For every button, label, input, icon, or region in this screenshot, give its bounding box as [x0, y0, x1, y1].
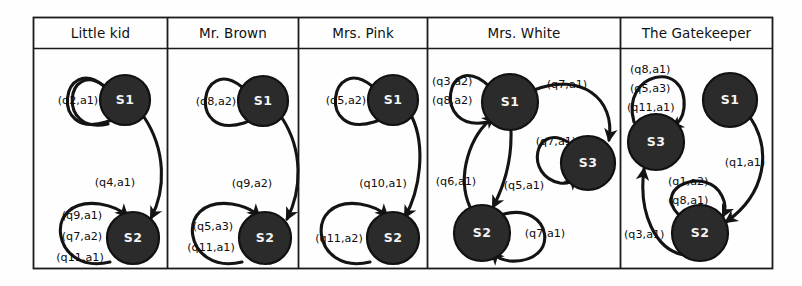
panel-title-the-gatekeeper: The Gatekeeper: [641, 25, 752, 41]
edge-label-s1-s3: (q7,a1): [547, 78, 587, 91]
transition-s1-s2: [493, 131, 511, 207]
edge-label-s1-s2: (q1,a1): [725, 156, 765, 169]
edge-label-s1-s2: (q10,a1): [359, 177, 407, 190]
state-label-s3: S3: [579, 155, 597, 170]
edge-label-loop-s2-1: (q5,a3): [193, 220, 233, 233]
panel-the-gatekeeper: (q1,a1) (q3,a1) S1 S3 S2 (q8,a1) (q5,a3)…: [624, 63, 765, 261]
edge-label-loop-s2-1: (q9,a1): [62, 209, 102, 222]
state-label-s2: S2: [256, 230, 274, 245]
edge-label-loop-s2-2: (q7,a2): [62, 230, 102, 243]
edge-label-loop-s3-1: (q8,a1): [630, 63, 670, 76]
state-label-s2: S2: [124, 230, 142, 245]
edge-label-loop-s2-1: (q1,a2): [668, 175, 708, 188]
edge-label-loop-s2-3: (q11,a1): [56, 251, 104, 264]
edge-label-loop-s2: (q7,a1): [525, 227, 565, 240]
transition-s1-s2: [282, 118, 298, 219]
transition-s1-s2: [726, 117, 763, 222]
edge-label-s2-s1: (q6,a1): [436, 175, 476, 188]
state-label-s2: S2: [384, 230, 402, 245]
edge-label-loop-s1-2: (q8,a2): [432, 94, 472, 107]
edge-label-s1-s2: (q5,a1): [504, 179, 544, 192]
transition-s2-s1: [464, 117, 494, 207]
transition-s1-s2: [405, 117, 420, 217]
transition-s1-s2: [144, 117, 161, 218]
edge-label-loop-s2-2: (q8,a1): [668, 194, 708, 207]
state-label-s1: S1: [721, 92, 739, 107]
state-label-s2: S2: [473, 225, 491, 240]
panel-title-mr-brown: Mr. Brown: [199, 25, 267, 41]
state-label-s1: S1: [116, 92, 134, 107]
edge-label-loop-s3-2: (q5,a3): [630, 82, 670, 95]
state-machine-figure: Little kid Mr. Brown Mrs. Pink Mrs. Whit…: [0, 0, 802, 286]
panel-mr-brown: S1 (q8,a2) (q9,a2) S2 (q5,a3) (q11,a1): [187, 76, 298, 264]
state-label-s1: S1: [501, 94, 519, 109]
panel-mrs-pink: S1 (q5,a2) (q10,a1) S2 (q11,a2): [315, 75, 420, 264]
panel-title-mrs-pink: Mrs. Pink: [332, 25, 394, 41]
edge-label-s1-s2: (q4,a1): [95, 176, 135, 189]
panel-title-mrs-white: Mrs. White: [487, 25, 560, 41]
edge-label-loop-s1: (q5,a2): [326, 94, 366, 107]
edge-label-loop-s1: (q8,a2): [196, 95, 236, 108]
edge-label-loop-s1: (q2,a1): [58, 94, 98, 107]
panel-little-kid: S1 (q2,a1) (q4,a1) S2 (q9,a1) (q7,a2) (q…: [56, 75, 161, 264]
edge-label-s1-s2: (q9,a2): [232, 177, 272, 190]
edge-label-loop-s2-2: (q11,a1): [187, 241, 235, 254]
edge-label-loop-s3-3: (q11,a1): [627, 101, 675, 114]
state-label-s1: S1: [254, 93, 272, 108]
edge-label-s2-s3: (q3,a1): [624, 228, 664, 241]
state-label-s2: S2: [691, 225, 709, 240]
state-label-s1: S1: [384, 92, 402, 107]
panel-mrs-white: (q7,a1) (q7,a1) (q6,a1) (q5,a1) (q7,a1) …: [432, 74, 615, 261]
diagram-canvas: Little kid Mr. Brown Mrs. Pink Mrs. Whit…: [0, 0, 802, 286]
panel-title-little-kid: Little kid: [71, 25, 130, 41]
transition-s1-s3: [534, 84, 610, 140]
state-label-s3: S3: [647, 134, 665, 149]
edge-label-loop-s2: (q11,a2): [315, 232, 363, 245]
edge-label-loop-s1-1: (q3,a2): [432, 75, 472, 88]
